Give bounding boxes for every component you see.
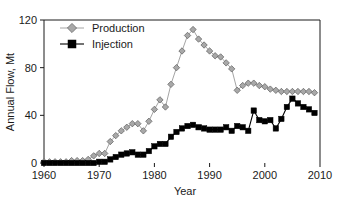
- injection-data-point: [124, 151, 129, 156]
- y-tick-label: 80: [25, 62, 37, 74]
- injection-data-point: [212, 127, 217, 132]
- injection-data-point: [152, 144, 157, 149]
- injection-data-point: [290, 96, 295, 101]
- injection-data-point: [301, 104, 306, 109]
- y-tick-label: 120: [19, 14, 37, 26]
- injection-data-point: [174, 129, 179, 134]
- injection-data-point: [196, 125, 201, 130]
- x-tick-label: 1960: [32, 169, 56, 181]
- x-tick-label: 1980: [142, 169, 166, 181]
- injection-data-point: [218, 127, 223, 132]
- x-tick-label: 2000: [253, 169, 277, 181]
- x-axis-title: Year: [174, 185, 197, 197]
- injection-data-point: [85, 160, 90, 165]
- injection-data-point: [63, 160, 68, 165]
- injection-data-point: [108, 157, 113, 162]
- injection-data-point: [257, 117, 262, 122]
- annual-flow-line-chart: 04080120 196019701980199020002010 Annual…: [0, 0, 341, 200]
- injection-data-point: [69, 160, 74, 165]
- injection-data-point: [201, 126, 206, 131]
- injection-data-point: [240, 125, 245, 130]
- injection-data-point: [190, 122, 195, 127]
- y-tick-label: 40: [25, 109, 37, 121]
- x-tick-label: 1990: [197, 169, 221, 181]
- injection-data-point: [80, 160, 85, 165]
- injection-data-point: [235, 123, 240, 128]
- injection-data-point: [185, 123, 190, 128]
- x-tick-label: 2010: [308, 169, 332, 181]
- legend-label-production: Production: [92, 22, 145, 34]
- injection-data-point: [273, 126, 278, 131]
- injection-data-point: [179, 126, 184, 131]
- injection-data-point: [284, 104, 289, 109]
- injection-data-point: [262, 119, 267, 124]
- injection-data-point: [102, 159, 107, 164]
- injection-data-point: [207, 127, 212, 132]
- injection-data-point: [312, 110, 317, 115]
- injection-data-point: [295, 101, 300, 106]
- injection-data-point: [157, 141, 162, 146]
- injection-data-point: [135, 152, 140, 157]
- injection-data-point: [223, 125, 228, 130]
- injection-data-point: [306, 107, 311, 112]
- injection-data-point: [246, 128, 251, 133]
- injection-data-point: [47, 160, 52, 165]
- y-axis-title: Annual Flow, Mt: [4, 53, 16, 131]
- injection-data-point: [130, 150, 135, 155]
- injection-data-point: [163, 141, 168, 146]
- injection-data-point: [268, 117, 273, 122]
- injection-data-point: [279, 116, 284, 121]
- injection-data-point: [58, 160, 63, 165]
- injection-data-point: [74, 160, 79, 165]
- square-marker-icon: [68, 40, 76, 48]
- injection-data-point: [168, 134, 173, 139]
- x-tick-label: 1970: [87, 169, 111, 181]
- injection-data-point: [141, 152, 146, 157]
- legend-label-injection: Injection: [92, 38, 133, 50]
- injection-data-point: [251, 108, 256, 113]
- injection-data-point: [119, 152, 124, 157]
- injection-data-point: [41, 160, 46, 165]
- injection-data-point: [146, 148, 151, 153]
- injection-data-point: [52, 160, 57, 165]
- injection-data-point: [91, 160, 96, 165]
- injection-data-point: [97, 159, 102, 164]
- injection-data-point: [229, 128, 234, 133]
- y-tick-label: 0: [31, 157, 37, 169]
- injection-data-point: [113, 154, 118, 159]
- chart-container: 04080120 196019701980199020002010 Annual…: [0, 0, 341, 200]
